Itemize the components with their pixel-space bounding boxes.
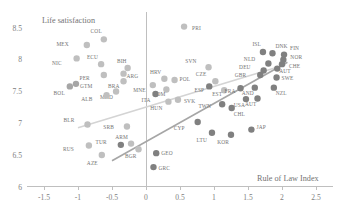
data-point (248, 126, 254, 132)
data-point (128, 140, 134, 146)
data-point-label: BIH (117, 58, 127, 64)
data-point-label: FRA (225, 88, 236, 94)
data-point-label: DNK (275, 43, 287, 49)
data-point-label: SWE (282, 75, 294, 81)
data-point-label: LTU (197, 137, 207, 143)
x-tick-label: -1.5 (38, 193, 50, 202)
data-points-group: PRICOLMEXNICECUBIHSVNISLDNKFINNORCHENLDD… (52, 23, 303, 171)
data-point-label: SRB (103, 124, 114, 130)
x-tick-label: -1 (75, 193, 82, 202)
data-point (205, 64, 211, 70)
data-point-label: POL (180, 76, 191, 82)
data-point (135, 146, 141, 152)
data-point-label: SVN (185, 58, 196, 64)
data-point-label: DEU (239, 64, 251, 70)
x-tick-label: 2.5 (311, 193, 321, 202)
data-point (209, 130, 215, 136)
data-point (273, 74, 279, 80)
data-point-label: BLR (64, 117, 75, 123)
data-point-label: AUT (245, 101, 257, 107)
x-tick-label: 1.5 (243, 193, 253, 202)
data-point-label: ARG (127, 73, 139, 79)
data-point (181, 23, 187, 29)
data-point-label: TWN (198, 103, 211, 109)
data-point-label: CZE (196, 71, 207, 77)
data-point (118, 142, 124, 148)
data-point-label: RUS (63, 146, 74, 152)
data-point (73, 55, 79, 61)
data-point (152, 91, 158, 97)
scatter-chart: PRICOLMEXNICECUBIHSVNISLDNKFINNORCHENLDD… (0, 0, 341, 218)
data-point (86, 142, 92, 148)
data-point-label: ARM (115, 134, 128, 140)
data-point (73, 81, 79, 87)
y-tick-label: 7 (18, 119, 22, 128)
data-point-label: HRV (150, 69, 161, 75)
data-point (124, 123, 130, 129)
data-point-label: NZL (276, 90, 287, 96)
y-tick-label: 8.5 (13, 24, 23, 33)
data-point-label: EST (212, 91, 223, 97)
plot-area: PRICOLMEXNICECUBIHSVNISLDNKFINNORCHENLDD… (0, 0, 341, 218)
x-axis-title: Rule of Law Index (257, 174, 319, 183)
data-point-label: AZE (87, 160, 98, 166)
data-point (257, 72, 263, 78)
data-point (124, 65, 130, 71)
data-point-label: ESP (194, 87, 204, 93)
data-point (265, 60, 271, 66)
data-point (228, 131, 234, 137)
data-point-label: HUN (150, 105, 162, 111)
data-point-label: GTM (80, 83, 92, 89)
data-point-label: PRI (192, 25, 201, 31)
data-point (212, 78, 218, 84)
data-point (150, 164, 156, 170)
data-point (153, 150, 159, 156)
y-tick-label: 6 (18, 183, 22, 192)
data-point-label: CHL (234, 111, 245, 117)
data-point (84, 42, 90, 48)
data-point-label: NIC (52, 60, 62, 66)
data-point (98, 61, 104, 67)
data-point (84, 121, 90, 127)
data-point (101, 72, 107, 78)
data-point (219, 101, 225, 107)
y-axis-title: Life satisfaction (42, 16, 95, 25)
y-tick-label: 6.5 (13, 151, 23, 160)
data-point (165, 98, 171, 104)
data-point (260, 49, 266, 55)
data-point-label: BRA (108, 83, 120, 89)
data-point-label: SVK (184, 98, 195, 104)
data-point-label: USA (234, 102, 245, 108)
data-point-label: ISL (252, 41, 261, 47)
data-point-label: GBR (235, 72, 247, 78)
data-point (206, 83, 212, 89)
x-tick-label: 1 (212, 193, 216, 202)
data-point-label: PER (79, 75, 90, 81)
data-point-label: KOR (217, 139, 229, 145)
x-tick-label: 0.5 (175, 193, 185, 202)
data-point (150, 82, 156, 88)
data-point (67, 83, 73, 89)
data-point (171, 77, 177, 83)
data-point-label: NLD (244, 56, 256, 62)
y-tick-label: 8 (18, 55, 22, 64)
data-point (101, 36, 107, 42)
y-tick-label: 7.5 (13, 87, 23, 96)
data-point-label: CYP (174, 125, 185, 131)
data-point-label: NOR (290, 54, 302, 60)
data-point-label: JAP (256, 124, 265, 130)
x-tick-label: 2 (280, 193, 284, 202)
data-point-label: MEX (56, 41, 68, 47)
data-point-label: ALB (81, 96, 92, 102)
x-tick-label: 0 (144, 193, 148, 202)
data-point-label: GEO (161, 150, 173, 156)
data-point-label: TUR (96, 139, 107, 145)
data-point-label: AND (242, 90, 254, 96)
data-point-label: BGR (125, 153, 137, 159)
data-point-label: BOL (54, 90, 65, 96)
data-point (194, 119, 200, 125)
data-point (113, 88, 119, 94)
data-point-label: COL (91, 28, 102, 34)
data-point (161, 76, 167, 82)
data-point (269, 50, 275, 56)
